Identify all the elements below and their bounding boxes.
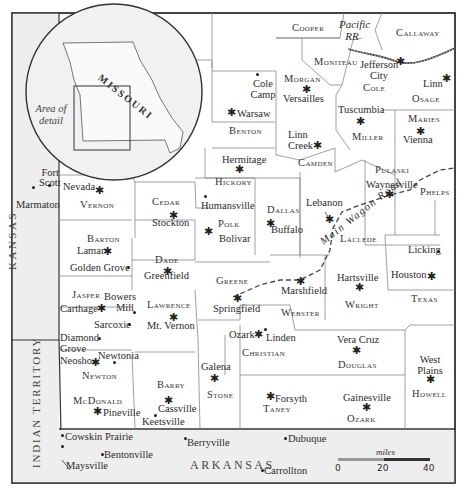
scale-bar: miles 0 20 40 [338,447,434,477]
county-cedar: Cedar [152,196,180,207]
town-bowers-mill: Bowers Mill [104,291,134,313]
town-dubuque: Dubuque [288,433,327,444]
county-greene: Greene [216,275,249,286]
town-galena: Galena [201,361,231,372]
town-dot [204,195,207,198]
town-pineville: Pineville [103,407,140,418]
town-sarcoxie: Sarcoxie [94,319,131,330]
county-webster: Webster [281,307,320,318]
town-berryville: Berryville [187,437,230,448]
town-bolivar: Bolivar [219,233,251,244]
county-seat-star-icon: ✱ [313,140,322,150]
county-newton: Newton [82,370,117,381]
town-dot [437,250,440,253]
county-cole: Cole [363,82,385,93]
town-cowskin-prairie: Cowskin Prairie [65,431,133,442]
town-mt-vernon: Mt. Vernon [147,320,195,331]
kansas-label: KANSAS [6,211,18,270]
county-barry: Barry [157,379,185,390]
town-versailles: Versailles [283,93,324,104]
town-buffalo: Buffalo [271,224,303,235]
town-dot [256,73,259,76]
town-dot [61,434,64,437]
town-dot [133,311,136,314]
map: MISSOURI Area of detail KANSAS INDIAN TE… [0,0,466,496]
county-miller: Miller [352,131,384,142]
county-moniteau: Moniteau [314,56,358,67]
county-seat-star-icon: ✱ [426,374,435,384]
town-carthage: Carthage [60,303,98,314]
county-christian: Christian [242,347,285,358]
county-lawrence: Lawrence [147,299,191,310]
county-seat-star-icon: ✱ [266,391,275,401]
county-seat-star-icon: ✱ [362,402,371,412]
county-pulaski: Pulaski [375,164,409,175]
town-vienna: Vienna [403,134,433,145]
county-seat-star-icon: ✱ [427,271,436,281]
scale-tick-0: 0 [335,463,341,474]
town-dot [264,328,267,331]
county-seat-star-icon: ✱ [93,406,102,416]
county-laclede: Laclede [340,233,377,244]
town-lebanon: Lebanon [306,197,343,208]
county-cooper: Cooper [292,22,324,33]
county-barton: Barton [87,233,120,244]
county-seat-star-icon: ✱ [95,185,104,195]
town-linn-creek: Linn Creek [288,129,314,151]
county-taney: Taney [263,403,291,414]
town-dot [48,184,51,187]
town-humansville: Humansville [201,200,255,211]
scale-tick-40: 40 [423,463,434,474]
town-carrollton: Carrollton [264,465,307,476]
county-hickory: Hickory [215,176,252,187]
scale-segment-dark [384,458,430,461]
county-ozark: Ozark [347,413,376,424]
town-cassville: Cassville [158,403,197,414]
town-licking: Licking [408,244,441,255]
town-greenfield: Greenfield [144,270,189,281]
county-callaway: Callaway [396,27,440,38]
town-linn: Linn [423,78,443,89]
town-ozark: Ozark [229,329,255,340]
county-stone: Stone [207,389,233,400]
town-dot [127,266,130,269]
county-benton: Benton [229,125,262,136]
scale-segment-light [338,458,384,461]
town-bentonville: Bentonville [104,449,153,460]
town-jefferson-city: Jefferson City [360,59,398,81]
town-forsyth: Forsyth [275,393,307,404]
county-polk: Polk [218,218,240,229]
town-lamar: Lamar [77,245,104,256]
town-diamond-grove: Diamond Grove [60,332,100,354]
town-dot [284,437,287,440]
scale-tick-20: 20 [377,463,388,474]
county-seat-star-icon: ✱ [103,246,112,256]
county-howell: Howell [412,388,446,399]
town-cole-camp: Cole Camp [248,78,278,100]
county-jasper: Jasper [72,289,100,300]
town-maysville: Maysville [66,460,108,471]
town-hermitage: Hermitage [222,154,266,165]
county-vernon: Vernon [80,199,114,210]
town-neosho: Neosho [60,355,92,366]
county-seat-star-icon: ✱ [235,164,244,174]
town-springfield: Springfield [213,303,260,314]
county-seat-star-icon: ✱ [442,73,451,83]
town-dot [113,361,116,364]
county-seat-star-icon: ✱ [210,373,219,383]
county-dallas: Dallas [267,204,300,215]
inset-area-label: Area of detail [34,103,68,127]
county-seat-star-icon: ✱ [233,293,242,303]
county-seat-star-icon: ✱ [227,107,236,117]
county-seat-star-icon: ✱ [254,329,263,339]
county-dade: Dade [155,254,179,265]
county-wright: Wright [345,299,379,310]
county-seat-star-icon: ✱ [352,345,361,355]
railroad-label: Pacific RR [339,18,365,42]
town-marmaton: Marmaton [16,199,60,210]
town-marshfield: Marshfield [281,285,327,296]
county-camden: Camden [298,157,333,168]
town-warsaw: Warsaw [237,108,271,119]
town-dot [98,337,101,340]
county-texas: Texas [411,293,438,304]
